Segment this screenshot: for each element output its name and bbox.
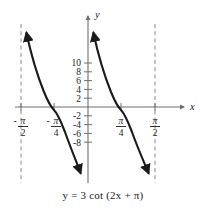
x-tick-label-pi-over-4: π 4 (116, 116, 126, 138)
equation-caption: y = 3 cot (2x + π) (0, 189, 206, 201)
chart-canvas: 10 8 6 4 2 -2 -4 -6 -8 - π 2 - π 4 π 4 (0, 0, 206, 214)
cotangent-graph-figure: 10 8 6 4 2 -2 -4 -6 -8 - π 2 - π 4 π 4 (0, 0, 206, 214)
x-tick-numerator: π (21, 116, 26, 126)
y-axis-label: y (94, 9, 100, 20)
y-tick-labels: 10 8 6 4 2 -2 -4 -6 -8 (72, 58, 82, 147)
x-tick-denominator: 2 (153, 128, 158, 138)
x-tick-numerator: π (153, 116, 158, 126)
x-tick-sign: - (46, 116, 49, 126)
x-tick-sign: - (13, 116, 16, 126)
y-tick-label: 2 (76, 94, 81, 104)
x-tick-numerator: π (54, 116, 59, 126)
x-tick-numerator: π (119, 116, 124, 126)
x-axis-label: x (189, 101, 195, 112)
x-tick-denominator: 4 (54, 128, 59, 138)
x-tick-denominator: 4 (119, 128, 124, 138)
y-tick-label: -8 (73, 138, 81, 148)
x-tick-denominator: 2 (21, 128, 26, 138)
